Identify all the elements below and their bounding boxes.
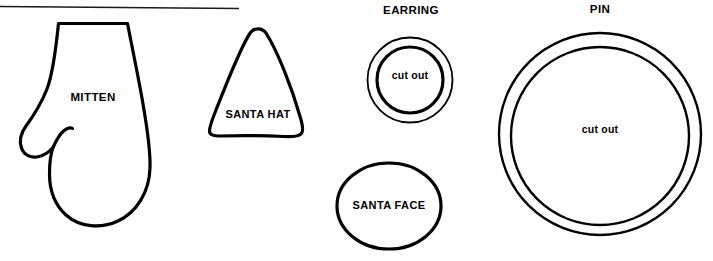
santa-hat-label: SANTA HAT [225,108,290,120]
earring-title: EARRING [383,4,439,16]
mitten-pattern[interactable]: MITTEN [20,24,150,226]
pattern-canvas: MITTEN SANTA HAT EARRING cut out SANTA F… [0,0,713,261]
earring-pattern[interactable]: EARRING cut out [368,4,453,122]
santa-hat-outline [210,29,303,137]
mitten-outline [20,24,150,226]
santa-face-pattern[interactable]: SANTA FACE [337,163,441,249]
pin-cutout-label: cut out [582,123,619,135]
pattern-sheet: MITTEN SANTA HAT EARRING cut out SANTA F… [0,0,713,261]
pin-title: PIN [590,3,610,15]
pin-pattern[interactable]: PIN cut out [499,3,701,235]
santa-face-label: SANTA FACE [352,199,425,211]
santa-hat-pattern[interactable]: SANTA HAT [210,29,303,137]
horizontal-rule [0,7,239,9]
pin-inner-circle [511,47,689,225]
earring-cutout-label: cut out [392,69,429,81]
mitten-label: MITTEN [70,91,115,103]
